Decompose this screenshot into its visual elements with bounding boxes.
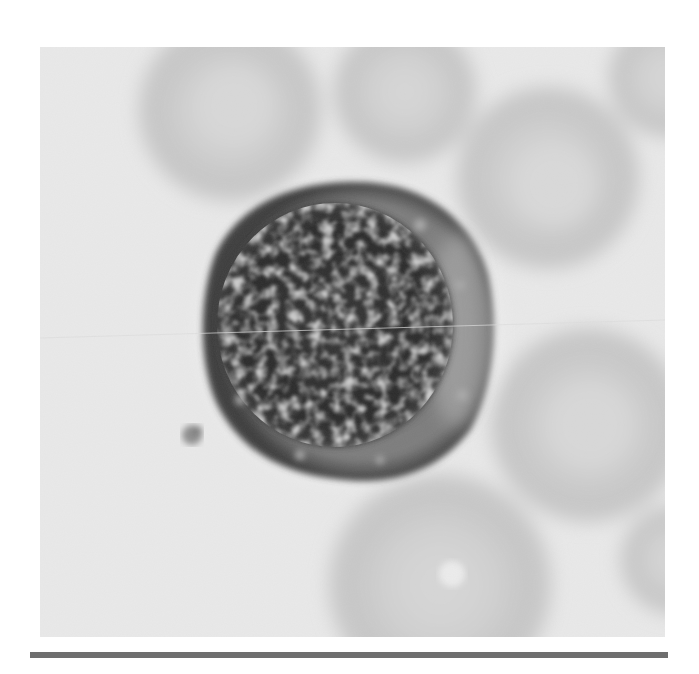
field — [40, 47, 665, 637]
bottom-rule — [30, 652, 668, 658]
micrograph-image — [40, 47, 665, 637]
blood-smear-svg — [40, 47, 665, 637]
film-grain — [40, 47, 665, 637]
